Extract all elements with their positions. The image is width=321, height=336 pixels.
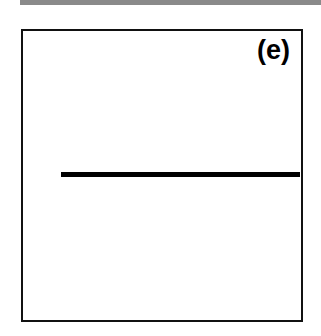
top-rule-divider: [20, 0, 321, 5]
series-line-flat-response: [61, 172, 300, 177]
figure-panel-e: (e): [0, 0, 321, 336]
panel-label: (e): [257, 37, 290, 64]
plot-frame: (e): [21, 29, 303, 322]
